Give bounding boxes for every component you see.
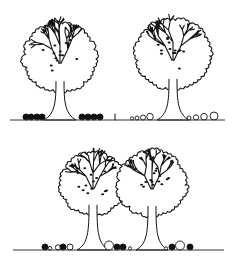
bottom-tree-2-leaf [160, 183, 163, 185]
bottom-tree-2-leaf [157, 180, 160, 182]
bottom-tree-2-leaf [140, 184, 143, 186]
filled-shrub [120, 244, 126, 250]
bottom-tree-2-leaf [155, 168, 158, 170]
hollow-shrub [210, 112, 218, 120]
hollow-shrub [147, 113, 154, 120]
filled-shrub [28, 114, 34, 120]
bottom-tree-2-leaf [144, 181, 147, 183]
hollow-shrub [48, 246, 52, 250]
top-tree-2-leaf [169, 48, 172, 50]
top-tree-1-leaf [51, 69, 54, 71]
filled-shrub [91, 114, 97, 120]
filled-shrub [39, 114, 45, 120]
bottom-tree-2-leaf [154, 170, 157, 172]
top-tree-2-leaf [172, 52, 175, 54]
top-tree-2-leaf [166, 38, 169, 40]
bottom-tree-2-leaf [153, 172, 156, 174]
bottom-tree-1-leaf [76, 172, 79, 174]
hollow-shrub [67, 244, 73, 250]
top-tree-1-leaf [67, 43, 70, 45]
top-tree-1-leaf [56, 59, 59, 61]
top-tree-1-leaf [59, 51, 62, 53]
top-tree-1-leaf [53, 45, 56, 47]
top-tree-2-leaf [178, 67, 181, 69]
bottom-tree-1-leaf [101, 193, 104, 195]
tree-illustration [0, 0, 237, 265]
top-tree-2-leaf [174, 50, 177, 52]
top-tree-2-leaf [179, 49, 182, 51]
filled-shrub [169, 244, 175, 250]
top-tree-1-leaf [42, 49, 45, 51]
bottom-tree-1-leaf [105, 189, 108, 191]
bottom-tree-1-leaf [86, 192, 89, 194]
top-tree-2-leaf [168, 41, 171, 43]
filled-shrub [114, 244, 120, 250]
bottom-tree-1-leaf [90, 174, 93, 176]
bottom-tree-2-leaf [142, 186, 145, 188]
bottom-tree-1-leaf [90, 188, 93, 190]
top-tree-1-leaf [50, 65, 53, 67]
filled-shrub [85, 114, 91, 120]
bottom-tree-1-leaf [77, 186, 80, 188]
bottom-tree-1-leaf [95, 177, 98, 179]
top-tree-2-leaf [160, 50, 163, 52]
top-tree-2-leaf [182, 50, 185, 52]
top-tree-1-leaf [52, 52, 55, 54]
bottom-tree-1-leaf [103, 170, 106, 172]
top-tree-1-leaf [75, 58, 78, 60]
filled-shrub [187, 244, 193, 250]
bottom-tree-2-leaf [166, 178, 169, 180]
top-tree-1-leaf [61, 54, 64, 56]
top-tree-1-leaf [69, 39, 72, 41]
planting-diagram [0, 0, 237, 265]
filled-shrub [97, 114, 103, 120]
hollow-shrub [135, 116, 139, 120]
bottom-tree-1-leaf [84, 184, 87, 186]
filled-shrub [79, 114, 85, 120]
top-tree-1-leaf [54, 57, 57, 59]
bottom-tree-1-leaf [92, 180, 95, 182]
hollow-shrub [176, 241, 185, 250]
bottom-tree-2-leaf [151, 181, 154, 183]
top-tree-2-leaf [157, 44, 160, 46]
bottom-tree-2-leaf [158, 175, 161, 177]
bottom-tree-2-leaf [151, 184, 154, 186]
bottom-tree-1-leaf [82, 189, 85, 191]
hollow-shrub [201, 113, 208, 120]
filled-shrub [60, 244, 66, 250]
bottom-tree-1-leaf [83, 167, 86, 169]
hollow-shrub [105, 241, 114, 250]
hollow-shrub [141, 115, 146, 120]
top-tree-2-leaf [160, 53, 163, 55]
filled-shrub [42, 244, 48, 250]
hollow-shrub [187, 116, 191, 120]
hollow-shrub [193, 115, 198, 120]
